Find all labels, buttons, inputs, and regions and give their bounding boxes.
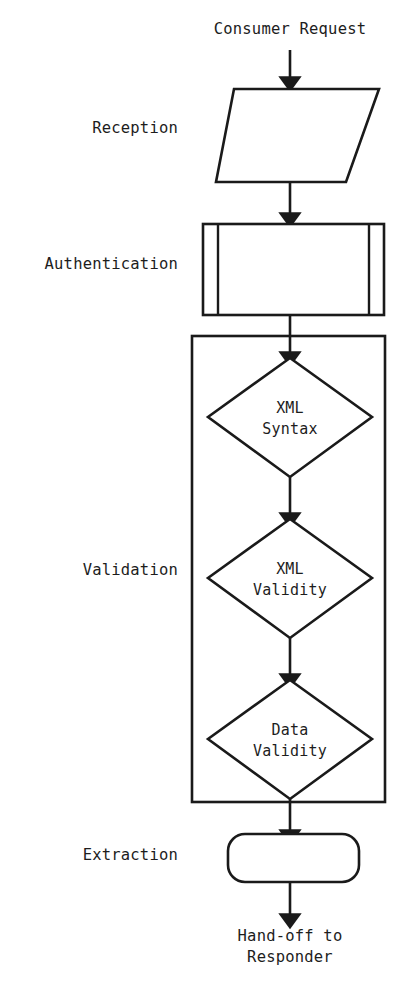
xml-syntax-node-label-line1: XML: [276, 399, 304, 417]
reception-node-shape: [216, 89, 379, 182]
data-validity-node-label-line2: Validity: [253, 742, 327, 760]
xml-validity-node-label-line2: Validity: [253, 581, 327, 599]
xml-validity-node-label-line1: XML: [276, 560, 304, 578]
xml-validity-node-shape: [208, 519, 372, 638]
data-validity-node-label-line1: Data: [272, 721, 309, 739]
flowchart-diagram: Consumer Request Reception Authenticatio…: [0, 0, 405, 994]
authentication-node-shape: [203, 224, 384, 315]
flowchart-canvas: XML Syntax XML Validity Data Validity: [0, 0, 405, 994]
xml-syntax-node-label-line2: Syntax: [262, 420, 317, 438]
data-validity-node-shape: [208, 680, 372, 799]
extraction-node-shape: [228, 834, 359, 882]
xml-syntax-node-shape: [208, 358, 372, 477]
